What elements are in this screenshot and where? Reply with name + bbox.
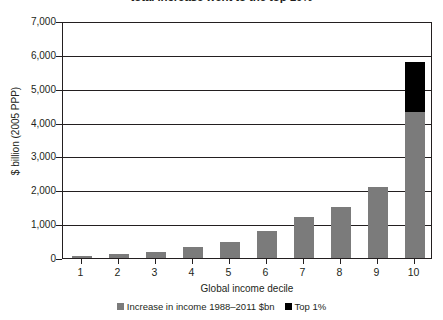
legend-entry[interactable]: Top 1% [285,300,327,312]
x-tick-label: 10 [394,267,434,278]
x-tick-label: 5 [209,267,249,278]
x-tick-mark [81,259,82,264]
x-axis-title: Global income decile [62,283,432,294]
bar-segment-increase[interactable] [405,112,425,258]
bar-group[interactable] [257,231,277,258]
bar-segment-top1[interactable] [405,62,425,113]
x-tick-label: 2 [98,267,138,278]
chart-title: total increase went to the top 10% [0,0,443,3]
x-tick-label: 8 [320,267,360,278]
x-tick-label: 3 [135,267,175,278]
bar-segment-increase[interactable] [109,254,129,258]
legend-swatch-icon [117,303,124,310]
chart-legend: Increase in income 1988–2011 $bnTop 1% [0,300,443,312]
y-tick-label: 4,000 [0,119,56,129]
y-axis-title: $ billion (2005 PPP) [11,41,21,221]
bar-segment-increase[interactable] [294,217,314,258]
y-tick-label: 1,000 [0,220,56,230]
bar-segment-increase[interactable] [257,231,277,258]
bar-segment-increase[interactable] [146,252,166,258]
gridline [63,56,431,57]
legend-swatch-icon [285,303,292,310]
bar-group[interactable] [109,254,129,258]
x-tick-label: 9 [357,267,397,278]
legend-label: Top 1% [295,301,327,312]
x-tick-label: 6 [246,267,286,278]
plot-area [62,22,432,259]
x-tick-mark [340,259,341,264]
bar-group[interactable] [294,217,314,258]
y-tick-label: 5,000 [0,85,56,95]
bar-group[interactable] [183,247,203,258]
gridline [63,157,431,158]
y-tick-mark [56,259,62,260]
bar-segment-increase[interactable] [368,187,388,258]
y-tick-label: 0 [0,254,56,264]
y-tick-label: 7,000 [0,17,56,27]
bar-group[interactable] [368,187,388,258]
chart-figure: total increase went to the top 10% 01,00… [0,0,443,320]
bar-segment-increase[interactable] [72,256,92,258]
gridline [63,124,431,125]
bar-group[interactable] [331,207,351,258]
x-tick-label: 7 [283,267,323,278]
x-tick-label: 1 [61,267,101,278]
x-tick-label: 4 [172,267,212,278]
legend-label: Increase in income 1988–2011 $bn [127,301,275,312]
x-tick-mark [377,259,378,264]
y-tick-label: 2,000 [0,186,56,196]
x-tick-mark [155,259,156,264]
bar-segment-increase[interactable] [331,207,351,258]
y-tick-label: 6,000 [0,51,56,61]
gridline [63,90,431,91]
bar-group[interactable] [220,242,240,258]
bar-group[interactable] [405,62,425,258]
x-tick-mark [303,259,304,264]
x-tick-mark [192,259,193,264]
x-tick-mark [266,259,267,264]
bar-segment-increase[interactable] [183,247,203,258]
bar-group[interactable] [72,256,92,258]
x-tick-mark [229,259,230,264]
y-axis: 01,0002,0003,0004,0005,0006,0007,000 [0,0,56,320]
y-tick-label: 3,000 [0,152,56,162]
bar-group[interactable] [146,252,166,258]
x-tick-mark [414,259,415,264]
legend-entry[interactable]: Increase in income 1988–2011 $bn [117,300,275,312]
x-tick-mark [118,259,119,264]
bar-segment-increase[interactable] [220,242,240,258]
